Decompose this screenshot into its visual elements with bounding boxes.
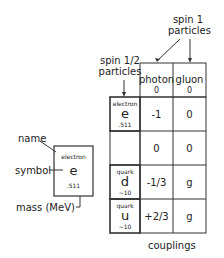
column-header-gluon: gluon 0 [173,70,206,97]
coupling-electron-gluon: 0 [173,97,206,131]
particle-cell-d-quark: quark d ~10 [110,165,140,199]
spin1-line1: spin 1 [168,14,208,25]
spin-half-line1: spin 1/2 [95,55,145,66]
column-name: gluon [176,74,204,85]
couplings-caption: couplings [148,240,196,251]
coupling-u-photon: +2/3 [140,199,173,233]
particle-symbol: e [121,107,129,121]
legend-example-cell: electron e .511 [54,146,93,196]
spin-half-line2: particles [95,66,145,77]
legend-mass-label: mass (MeV) [16,202,75,213]
particle-mass: ~10 [119,189,132,196]
particle-symbol: u [121,209,129,223]
particle-cell-empty [110,131,140,165]
coupling-empty-gluon: 0 [173,131,206,165]
spin1-label: spin 1 particles [168,14,208,36]
spin1-line2: particles [168,25,208,36]
particle-cell-u-quark: quark u ~10 [110,199,140,233]
legend-example-mass: .511 [67,182,80,189]
particle-cell-electron: electron e .511 [110,97,140,131]
particle-mass: .511 [118,121,131,128]
column-header-photon: photon 0 [140,70,173,97]
column-name: photon [139,74,174,85]
coupling-electron-photon: -1 [140,97,173,131]
coupling-empty-photon: 0 [140,131,173,165]
legend-symbol-label: symbol [15,165,51,176]
particle-mass: ~10 [119,223,132,230]
legend-example-name: electron [61,153,86,160]
particle-symbol: d [121,175,129,189]
legend-example-symbol: e [70,164,78,178]
coupling-u-gluon: g [173,199,206,233]
coupling-d-gluon: g [173,165,206,199]
legend-name-label: name [18,133,46,144]
coupling-d-photon: -1/3 [140,165,173,199]
spin-half-label: spin 1/2 particles [95,55,145,77]
column-mass: 0 [187,87,192,94]
column-mass: 0 [154,87,159,94]
